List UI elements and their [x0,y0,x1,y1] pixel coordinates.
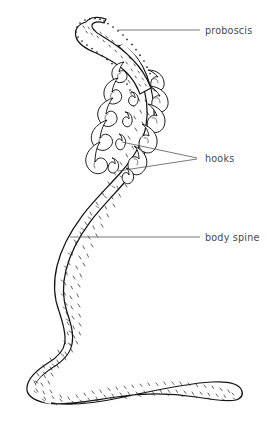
label-hooks: hooks [205,153,234,164]
label-proboscis: proboscis [205,25,252,36]
illustration-figure: proboscis hooks body spine [0,0,276,422]
worm-diagram-svg: proboscis hooks body spine [0,0,276,422]
label-body-spine: body spine [205,232,260,243]
